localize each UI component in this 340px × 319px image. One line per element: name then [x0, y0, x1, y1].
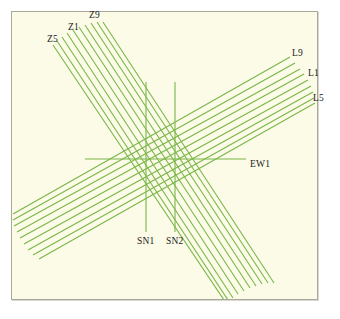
diagram-screenshot: Z5 Z1 Z9 L9 L1 L5 EW1 SN1 SN2	[0, 0, 340, 319]
label-l9: L9	[292, 48, 303, 58]
label-z1: Z1	[68, 22, 79, 32]
diagram-frame	[11, 11, 318, 300]
label-z5: Z5	[47, 34, 58, 44]
label-ew1: EW1	[250, 159, 270, 169]
label-sn2: SN2	[166, 236, 184, 246]
label-z9: Z9	[89, 10, 100, 20]
label-l5: L5	[313, 93, 324, 103]
label-l1: L1	[308, 68, 319, 78]
label-sn1: SN1	[137, 236, 155, 246]
